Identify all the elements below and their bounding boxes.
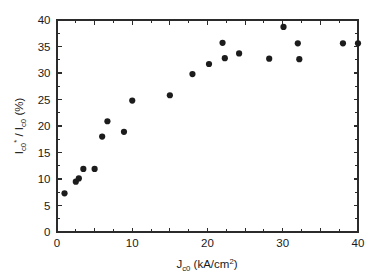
data-point	[340, 40, 346, 46]
data-point	[80, 166, 86, 172]
y-tick-label: 40	[38, 14, 51, 26]
data-point	[189, 71, 195, 77]
x-tick-label: 20	[201, 237, 214, 249]
data-point	[355, 40, 361, 46]
scatter-plot: 010203040 0510152025303540 Jc0 (kA/cm2) …	[0, 0, 379, 278]
y-tick-label: 0	[44, 226, 50, 238]
data-point	[104, 118, 110, 124]
y-tick-label: 30	[38, 67, 51, 79]
x-tick-label: 40	[352, 237, 365, 249]
y-tick-label: 5	[44, 200, 50, 212]
data-point	[236, 50, 242, 56]
y-tick-label: 25	[38, 94, 51, 106]
data-point	[266, 56, 272, 62]
y-tick-label: 10	[38, 173, 51, 185]
data-point	[296, 56, 302, 62]
data-point	[206, 61, 212, 67]
y-tick-label: 35	[38, 41, 51, 53]
data-point	[61, 190, 67, 196]
data-point	[295, 40, 301, 46]
figure-container: 010203040 0510152025303540 Jc0 (kA/cm2) …	[0, 0, 379, 278]
data-point	[99, 134, 105, 140]
data-point	[121, 129, 127, 135]
data-point	[280, 24, 286, 30]
data-point	[222, 55, 228, 61]
data-point	[76, 175, 82, 181]
y-tick-label: 20	[38, 120, 51, 132]
y-tick-label: 15	[38, 147, 51, 159]
x-tick-label: 30	[276, 237, 289, 249]
x-tick-label: 0	[54, 237, 60, 249]
data-point	[219, 40, 225, 46]
x-tick-label: 10	[126, 237, 139, 249]
data-point	[129, 97, 135, 103]
data-point	[167, 92, 173, 98]
data-point	[92, 166, 98, 172]
